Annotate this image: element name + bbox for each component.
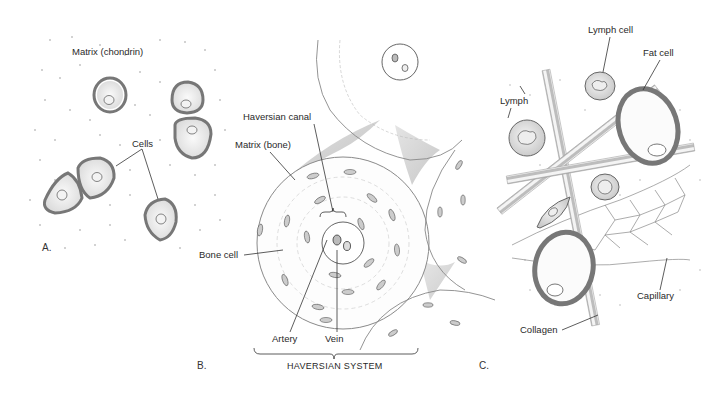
interstitial-lamellae: [395, 125, 440, 185]
label-haversian-system: HAVERSIAN SYSTEM: [287, 361, 383, 371]
cartilage-cell: [145, 199, 176, 240]
tissue-illustration: Matrix (chondrin) Cells A.: [0, 0, 725, 396]
artery-vessel: [333, 235, 341, 245]
label-fat-cell: Fat cell: [643, 47, 674, 58]
panel-label-a: A.: [42, 242, 51, 253]
label-haversian-canal: Haversian canal: [243, 111, 311, 122]
capillary-leader: [660, 258, 667, 290]
haversian-canal: [322, 222, 364, 264]
lymph-cell-leader: [603, 37, 610, 72]
label-artery: Artery: [272, 333, 298, 344]
fat-cell-leader: [643, 60, 660, 90]
cartilage-cell: [172, 82, 203, 113]
panel-label-b: B.: [197, 360, 206, 371]
cells-leader-line: [116, 149, 158, 199]
label-lymph-cell: Lymph cell: [588, 24, 633, 35]
vein-vessel: [344, 242, 351, 251]
panel-label-c: C.: [479, 360, 489, 371]
panel-b-bone: Haversian canal Matrix (bone) Bone cell …: [197, 40, 495, 371]
fibroblast: [537, 197, 570, 228]
lymph-cell: [509, 120, 545, 156]
cartilage-cell: [94, 78, 126, 112]
label-cells: Cells: [132, 138, 153, 149]
label-collagen: Collagen: [520, 324, 558, 335]
label-matrix-chondrin: Matrix (chondrin): [72, 46, 143, 57]
lymph-cell: [591, 174, 619, 200]
lymph-cell: [585, 72, 615, 100]
label-lymph: Lymph: [500, 95, 528, 106]
label-bone-cell: Bone cell: [199, 249, 238, 260]
label-capillary: Capillary: [637, 290, 674, 301]
haversian-system-brace: [254, 348, 418, 359]
osteon-main: [256, 157, 429, 329]
cartilage-cell: [78, 158, 114, 198]
panel-a-cartilage: Matrix (chondrin) Cells A.: [29, 36, 226, 253]
panel-c-connective-tissue: Lymph cell Fat cell Lymph Capillary Coll…: [479, 24, 701, 371]
label-vein: Vein: [325, 333, 344, 344]
label-matrix-bone: Matrix (bone): [235, 139, 291, 150]
cartilage-cell: [44, 173, 82, 213]
cartilage-cell: [175, 118, 211, 158]
matrix-bone-leader: [270, 152, 295, 180]
